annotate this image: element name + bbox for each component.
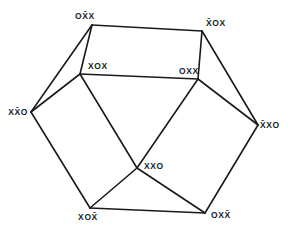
graph-vertex-labels: OX̄XX̄OXXOXOXXXX̄OX̄XOXXOXOX̄OXX̄ — [8, 11, 280, 222]
vertex-label-v5: XX̄O — [8, 107, 28, 117]
edge-v3-v7 — [80, 74, 137, 168]
edge-v3-v5 — [31, 74, 80, 112]
vertex-label-v1: OX̄X — [75, 11, 95, 21]
vertex-label-v7: XXO — [144, 161, 164, 171]
vertex-label-v9: OXX̄ — [211, 210, 231, 220]
edge-v1-v2 — [92, 25, 202, 31]
vertex-label-v8: XOX̄ — [78, 212, 98, 222]
graph-edges — [31, 25, 258, 213]
edge-v6-v9 — [205, 125, 258, 213]
edge-v4-v6 — [198, 79, 258, 125]
edge-v2-v6 — [202, 31, 258, 125]
edge-v7-v9 — [137, 168, 205, 213]
vertex-label-v6: X̄XO — [260, 120, 280, 130]
vertex-label-v4: OXX — [179, 66, 199, 76]
edge-v7-v8 — [90, 168, 137, 208]
edge-v5-v8 — [31, 112, 90, 208]
state-graph-diagram: OX̄XX̄OXXOXOXXXX̄OX̄XOXXOXOX̄OXX̄ — [0, 0, 308, 235]
vertex-label-v2: X̄OX — [206, 18, 226, 28]
edge-v8-v9 — [90, 208, 205, 213]
vertex-label-v3: XOX — [88, 61, 108, 71]
edge-v1-v5 — [31, 25, 92, 112]
edge-v4-v7 — [137, 79, 198, 168]
